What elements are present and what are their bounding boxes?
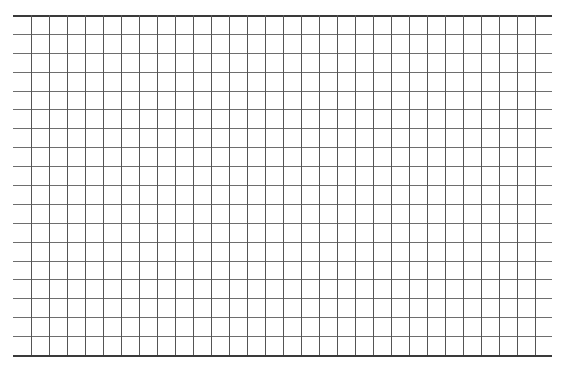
vertical-grid-line	[103, 15, 104, 355]
vertical-grid-line	[211, 15, 212, 355]
vertical-grid-line	[445, 15, 446, 355]
vertical-grid-line	[193, 15, 194, 355]
vertical-grid-line	[265, 15, 266, 355]
vertical-grid-line	[67, 15, 68, 355]
vertical-grid-line	[139, 15, 140, 355]
vertical-grid-line	[409, 15, 410, 355]
vertical-grid-line	[85, 15, 86, 355]
grid-paper	[13, 15, 552, 355]
vertical-grid-line	[373, 15, 374, 355]
vertical-grid-line	[175, 15, 176, 355]
vertical-grid-line	[355, 15, 356, 355]
vertical-grid-line	[121, 15, 122, 355]
vertical-grid-line	[49, 15, 50, 355]
vertical-grid-line	[301, 15, 302, 355]
vertical-grid-line	[499, 15, 500, 355]
vertical-grid-line	[427, 15, 428, 355]
vertical-grid-line	[283, 15, 284, 355]
vertical-grid-line	[337, 15, 338, 355]
vertical-grid-line	[391, 15, 392, 355]
vertical-grid-line	[463, 15, 464, 355]
vertical-grid-line	[319, 15, 320, 355]
vertical-grid-line	[517, 15, 518, 355]
vertical-grid-line	[247, 15, 248, 355]
horizontal-grid-line	[13, 355, 552, 357]
vertical-grid-line	[157, 15, 158, 355]
vertical-grid-line	[229, 15, 230, 355]
vertical-grid-line	[535, 15, 536, 355]
vertical-grid-line	[31, 15, 32, 355]
vertical-grid-line	[481, 15, 482, 355]
